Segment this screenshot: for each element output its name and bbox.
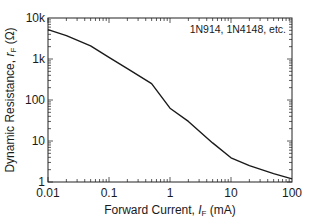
data-curve [48, 30, 292, 179]
legend-annotation: 1N914, 1N4148, etc. [190, 23, 286, 35]
line-chart: 0.010.1110100 1101001k10k 1N914, 1N4148,… [0, 0, 309, 221]
x-axis-title: Forward Current, IF (mA) [104, 203, 236, 218]
y-tick-label: 10k [26, 11, 46, 25]
x-tick-labels: 0.010.1110100 [36, 186, 302, 200]
x-tick-label: 100 [282, 186, 302, 200]
y-tick-label: 100 [25, 93, 45, 107]
x-tick-label: 10 [224, 186, 238, 200]
y-tick-label: 1k [32, 52, 46, 66]
y-axis-title: Dynamic Resistance, rF (Ω) [3, 27, 18, 172]
y-tick-label: 10 [32, 134, 46, 148]
y-tick-labels: 1101001k10k [25, 11, 46, 189]
y-tick-label: 1 [38, 175, 45, 189]
x-tick-label: 0.1 [101, 186, 118, 200]
x-tick-label: 1 [167, 186, 174, 200]
